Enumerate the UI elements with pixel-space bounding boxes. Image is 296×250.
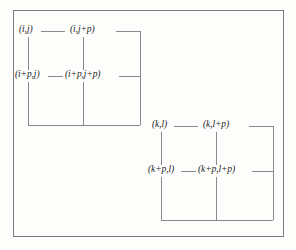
lattice-group-top-left: (i,j) (i,j+p) (i+p,j) (i+p,j+p) — [15, 22, 145, 130]
node-label-k-plus-p-l-plus-p: (k+p,l+p) — [198, 165, 235, 175]
lattice-group-bottom-right: (k,l) (k,l+p) (k+p,l) (k+p,l+p) — [148, 117, 278, 225]
node-label-k-l: (k,l) — [152, 120, 167, 130]
node-label-i-j: (i,j) — [19, 25, 32, 35]
figure-canvas: (i,j) (i,j+p) (i+p,j) (i+p,j+p) (k,l) (k… — [0, 0, 296, 250]
node-label-k-plus-p-l: (k+p,l) — [148, 165, 174, 175]
node-label-i-j-plus-p: (i,j+p) — [70, 25, 94, 35]
node-label-k-l-plus-p: (k,l+p) — [203, 120, 229, 130]
node-label-i-plus-p-j-plus-p: (i+p,j+p) — [65, 70, 100, 80]
node-label-i-plus-p-j: (i+p,j) — [15, 70, 39, 80]
